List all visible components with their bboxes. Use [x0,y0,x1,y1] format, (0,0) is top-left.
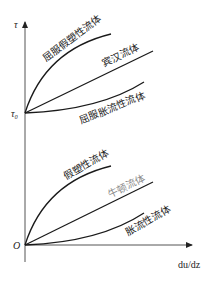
x-axis-label: du/dz [178,259,201,270]
curve-newtonian [25,182,153,245]
tau0-label: τ₀ [11,108,19,119]
label-bingham: 宾汉流体 [100,40,141,68]
label-pseudoplastic: 假塑性流体 [61,146,110,181]
label-dilatant: 胀流性流体 [123,202,172,237]
flow-curve-diagram: τ τ₀ O du/dz 屈服假塑性流体 宾汉流体 屈服胀流性流体 假塑性流体 … [0,0,210,285]
origin-label: O [13,240,20,251]
label-yield-pseudoplastic: 屈服假塑性流体 [40,12,103,64]
label-yield-dilatant: 屈服胀流性流体 [77,89,146,126]
y-axis-label: τ [14,19,18,30]
